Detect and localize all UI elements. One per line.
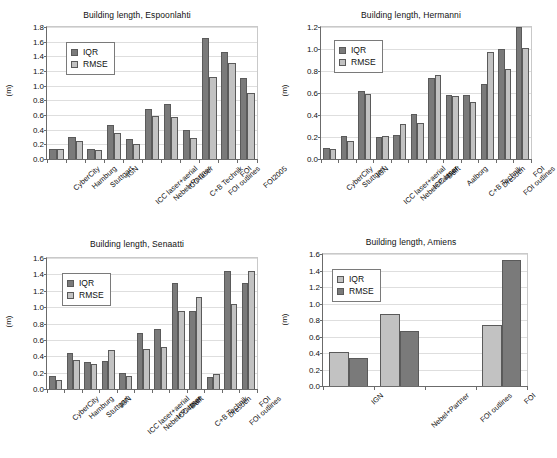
y-axis-label: (m) (280, 314, 289, 326)
x-axis-tick-row (323, 386, 527, 390)
x-axis-tick-label: Delft (188, 394, 205, 411)
bar-group (222, 258, 240, 389)
bar-iqr (107, 125, 114, 159)
bar-group (409, 27, 427, 159)
y-axis-tick-label: 0.2 (309, 365, 320, 374)
x-axis-tick-mark (222, 389, 240, 393)
bar-rmse (487, 52, 494, 159)
y-axis-tick-label: 0.0 (307, 155, 318, 164)
x-axis-tick-label: IGN (370, 391, 386, 406)
bar-iqr (482, 325, 501, 386)
x-axis-tick-mark (117, 389, 135, 393)
x-axis-tick-mark (85, 159, 104, 163)
bar-iqr (221, 52, 228, 159)
bar-iqr (145, 109, 152, 159)
bar-iqr (84, 362, 91, 389)
y-axis-tick-label: 1.4 (309, 266, 320, 275)
bar-group (47, 27, 66, 159)
x-axis-tick-mark (200, 159, 219, 163)
bar-rmse (400, 331, 419, 386)
legend-item-rmse: RMSE (339, 56, 376, 68)
bar-group (181, 27, 200, 159)
x-axis-tick-mark (47, 389, 65, 393)
y-axis-tick-label: 1.4 (33, 270, 44, 279)
y-axis-tick-label: 1.0 (309, 299, 320, 308)
bar-iqr (183, 130, 190, 159)
bar-rmse (190, 138, 197, 159)
bar-rmse (330, 149, 337, 159)
x-axis-tick-mark (496, 159, 514, 163)
x-axis-tick-mark (205, 389, 223, 393)
bar-rmse (435, 75, 442, 159)
bar-rmse (196, 297, 203, 389)
bar-iqr (68, 137, 75, 159)
bar-rmse (161, 347, 168, 389)
y-axis-label: (m) (4, 316, 13, 328)
legend-item-iqr: IQR (67, 277, 104, 289)
bar-rmse (400, 124, 407, 159)
x-axis-tick-mark (426, 159, 444, 163)
y-axis-tick-label: 1.6 (33, 37, 44, 46)
x-axis-tick-mark (170, 389, 188, 393)
legend-swatch-icon (71, 49, 78, 56)
bar-group (205, 258, 223, 389)
legend-label: IQR (351, 44, 366, 56)
chart-panel-senaatti: Building length, Senaatti (m) 0.00.20.40… (0, 229, 274, 458)
y-axis-tick-label: 1.0 (33, 81, 44, 90)
bar-group (219, 27, 238, 159)
chart-legend: IQRRMSE (332, 269, 381, 302)
y-axis-tick-label: 0.4 (33, 125, 44, 134)
bar-iqr (202, 38, 209, 159)
legend-item-iqr: IQR (339, 44, 376, 56)
legend-label: RMSE (349, 285, 374, 297)
x-axis-tick-mark (323, 386, 374, 390)
bar-iqr (376, 137, 383, 159)
x-axis-tick-mark (100, 389, 118, 393)
bar-group (479, 27, 497, 159)
bar-rmse (76, 141, 83, 159)
bar-iqr (240, 78, 247, 159)
legend-swatch-icon (67, 292, 74, 299)
x-axis-tick-mark (240, 389, 258, 393)
bar-iqr (172, 283, 179, 389)
bar-iqr (49, 376, 56, 389)
x-axis-tick-mark (104, 159, 123, 163)
y-axis-tick-label: 0.0 (33, 385, 44, 394)
bar-iqr (323, 148, 330, 159)
x-axis-tick-mark (444, 159, 462, 163)
y-axis-tick-label: 0.8 (307, 67, 318, 76)
bar-iqr (446, 95, 453, 159)
y-axis-tick-label: 0.2 (307, 133, 318, 142)
bar-iqr (126, 139, 133, 159)
legend-label: IQR (79, 277, 94, 289)
y-axis-tick-label: 1.6 (33, 254, 44, 263)
bar-iqr (498, 49, 505, 159)
chart-title: Building length, Espoonlahti (0, 10, 274, 20)
y-axis-tick-label: 0.6 (33, 111, 44, 120)
x-axis-tick-label: Aalborg (465, 164, 490, 188)
x-axis-tick-mark (238, 159, 257, 163)
bar-iqr (164, 104, 171, 159)
chart-legend: IQRRMSE (334, 40, 383, 73)
chart-panel-hermanni: Building length, Hermanni (m) 0.00.20.40… (274, 0, 548, 229)
bar-rmse (133, 144, 140, 159)
legend-swatch-icon (337, 288, 344, 295)
legend-swatch-icon (337, 276, 344, 283)
y-axis-tick-label: 0.6 (309, 332, 320, 341)
y-axis-tick-label: 0.2 (33, 368, 44, 377)
bar-group (238, 27, 257, 159)
y-axis-label: (m) (4, 85, 13, 97)
bar-rmse (114, 133, 121, 159)
bar-rmse (209, 77, 216, 159)
x-axis-tick-mark (461, 159, 479, 163)
bar-group (135, 258, 153, 389)
bar-rmse (522, 48, 529, 159)
legend-swatch-icon (67, 280, 74, 287)
chart-legend: IQRRMSE (66, 42, 115, 75)
bar-rmse (143, 349, 150, 389)
bar-iqr (380, 314, 399, 386)
x-axis-tick-mark (409, 159, 427, 163)
x-axis-tick-label: Nebel+Partner (430, 391, 472, 430)
x-axis-tick-mark (514, 159, 532, 163)
legend-label: IQR (349, 273, 364, 285)
